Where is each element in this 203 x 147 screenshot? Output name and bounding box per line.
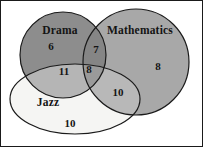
region-value-jazz-only: 10 bbox=[65, 117, 77, 129]
frame-border-right bbox=[202, 0, 203, 147]
set-label-mathematics: Mathematics bbox=[107, 24, 173, 36]
frame-border-left bbox=[0, 0, 1, 147]
set-label-drama: Drama bbox=[42, 24, 78, 36]
region-value-drama-mathematics-jazz: 8 bbox=[86, 63, 92, 75]
venn-diagram-figure: Drama Mathematics Jazz 6 7 8 11 8 10 10 bbox=[0, 0, 203, 147]
region-value-drama-jazz: 11 bbox=[59, 65, 69, 77]
region-value-drama-only: 6 bbox=[48, 40, 54, 52]
venn-diagram-canvas: Drama Mathematics Jazz 6 7 8 11 8 10 10 bbox=[0, 0, 203, 147]
region-value-drama-mathematics: 7 bbox=[93, 43, 99, 55]
frame-border-bottom bbox=[0, 146, 203, 147]
region-value-mathematics-jazz: 10 bbox=[113, 86, 125, 98]
region-value-mathematics-only: 8 bbox=[155, 60, 161, 72]
frame-border-top bbox=[0, 0, 203, 1]
set-label-jazz: Jazz bbox=[37, 96, 60, 108]
